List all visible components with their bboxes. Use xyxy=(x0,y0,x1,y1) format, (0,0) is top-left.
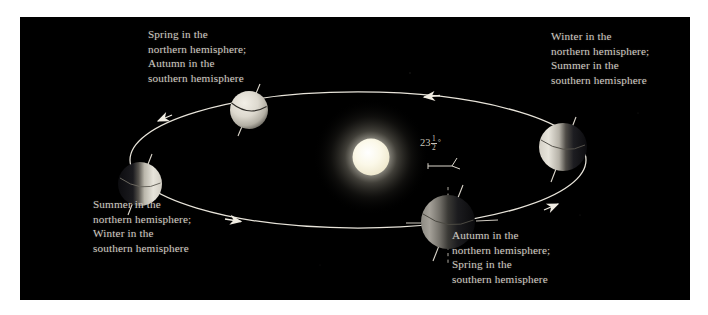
earth-top-sphere xyxy=(230,91,268,129)
caption-line: southern hemisphere xyxy=(551,73,649,88)
diagram-panel: Spring in the northern hemisphere; Autum… xyxy=(20,17,690,300)
orbit-arrow-right-lower xyxy=(544,204,558,210)
caption-line: Spring in the xyxy=(148,27,246,42)
tilt-fraction: 1 2 xyxy=(431,135,437,151)
caption-line: Spring in the xyxy=(452,257,550,272)
caption-line: northern hemisphere; xyxy=(93,212,191,227)
autumn-northern-caption: Autumn in the northern hemisphere; Sprin… xyxy=(452,228,550,286)
orbit-arrow-bottom xyxy=(225,219,241,222)
caption-line: Summer in the xyxy=(93,197,191,212)
caption-line: northern hemisphere; xyxy=(452,243,550,258)
caption-line: Summer in the xyxy=(551,58,649,73)
tilt-angle-marker xyxy=(428,158,460,169)
summer-northern-caption: Summer in the northern hemisphere; Winte… xyxy=(93,197,191,255)
earth-right-group xyxy=(539,117,587,182)
orbit-arrow-left-upper xyxy=(158,115,172,121)
caption-line: northern hemisphere; xyxy=(148,42,246,57)
earth-bottom-horizontal-ray-right xyxy=(476,220,498,221)
caption-line: Autumn in the xyxy=(452,228,550,243)
axial-tilt-angle-label: 23 1 2 ° xyxy=(420,135,441,151)
caption-line: northern hemisphere; xyxy=(551,44,649,59)
caption-line: Autumn in the xyxy=(148,56,246,71)
caption-line: southern hemisphere xyxy=(452,272,550,287)
tilt-fraction-numerator: 1 xyxy=(431,135,437,143)
sun-group xyxy=(313,99,429,215)
caption-line: southern hemisphere xyxy=(148,71,246,86)
caption-line: Winter in the xyxy=(551,29,649,44)
spring-northern-caption: Spring in the northern hemisphere; Autum… xyxy=(148,27,246,85)
winter-northern-caption: Winter in the northern hemisphere; Summe… xyxy=(551,29,649,87)
degree-symbol: ° xyxy=(438,139,441,147)
tilt-fraction-denominator: 2 xyxy=(431,144,437,152)
figure-frame: Spring in the northern hemisphere; Autum… xyxy=(0,0,708,315)
earth-top-group xyxy=(230,84,268,136)
sun-disc xyxy=(353,139,390,176)
tilt-whole-number: 23 xyxy=(420,138,431,149)
orbit-arrow-top xyxy=(424,96,440,98)
caption-line: southern hemisphere xyxy=(93,241,191,256)
caption-line: Winter in the xyxy=(93,226,191,241)
